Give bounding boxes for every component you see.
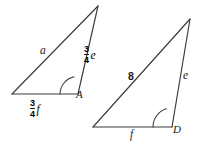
- left-triangle-base-label: 3 4 f: [30, 99, 40, 119]
- right-triangle-angle-arc: [153, 109, 166, 127]
- right-triangle-hypotenuse-edge: [93, 19, 190, 127]
- left-triangle-base-fraction: 3 4: [30, 99, 35, 119]
- left-triangle-base-variable: f: [37, 103, 40, 115]
- left-triangle-hypotenuse-label: a: [40, 45, 46, 57]
- fraction-numerator: 3: [30, 99, 35, 108]
- left-triangle-right-side-variable: e: [91, 49, 96, 61]
- fraction-denominator: 4: [30, 108, 35, 118]
- left-triangle-vertex-label-a: A: [76, 89, 83, 100]
- left-triangle-right-side-label: 3 4 e: [84, 45, 96, 65]
- fraction-denominator: 4: [84, 54, 89, 64]
- right-triangle-base-label: f: [130, 129, 133, 141]
- geometry-figure: a 3 4 e 3 4 f A 8 e f D: [0, 0, 207, 146]
- left-triangle-angle-arc: [60, 77, 74, 94]
- right-triangle-shape: [93, 19, 190, 127]
- left-triangle-right-side-fraction: 3 4: [84, 45, 89, 65]
- fraction-numerator: 3: [84, 45, 89, 54]
- right-triangle-vertex-label-d: D: [173, 124, 181, 135]
- right-triangle-right-side-label: e: [183, 70, 188, 82]
- right-triangle-hypotenuse-label: 8: [128, 71, 134, 82]
